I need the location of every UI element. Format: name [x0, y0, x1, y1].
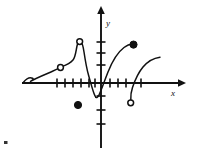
figure-root: y x	[0, 0, 201, 153]
closed-dot-below-axis	[74, 101, 81, 108]
y-axis-label: y	[105, 18, 110, 28]
discontinuity-markers	[58, 39, 137, 109]
curve-branch-right-arc	[131, 57, 160, 99]
closed-dot-upper-right	[130, 41, 137, 48]
open-circle-peak	[77, 39, 83, 45]
open-circle-lower-right	[128, 100, 134, 106]
curve-branch-left-tail	[24, 68, 60, 82]
function-graph: y x	[0, 0, 201, 153]
y-axis-arrowhead	[97, 6, 105, 14]
curve-branch-descent	[81, 42, 96, 97]
x-axis-label: x	[170, 88, 175, 98]
curve-branch-rise-to-peak	[62, 43, 78, 67]
function-curve-group	[24, 42, 161, 99]
corner-artifact-mark	[4, 141, 8, 144]
axes-group	[22, 6, 186, 148]
x-axis-arrowhead	[178, 79, 186, 87]
open-circle-left	[58, 65, 64, 71]
